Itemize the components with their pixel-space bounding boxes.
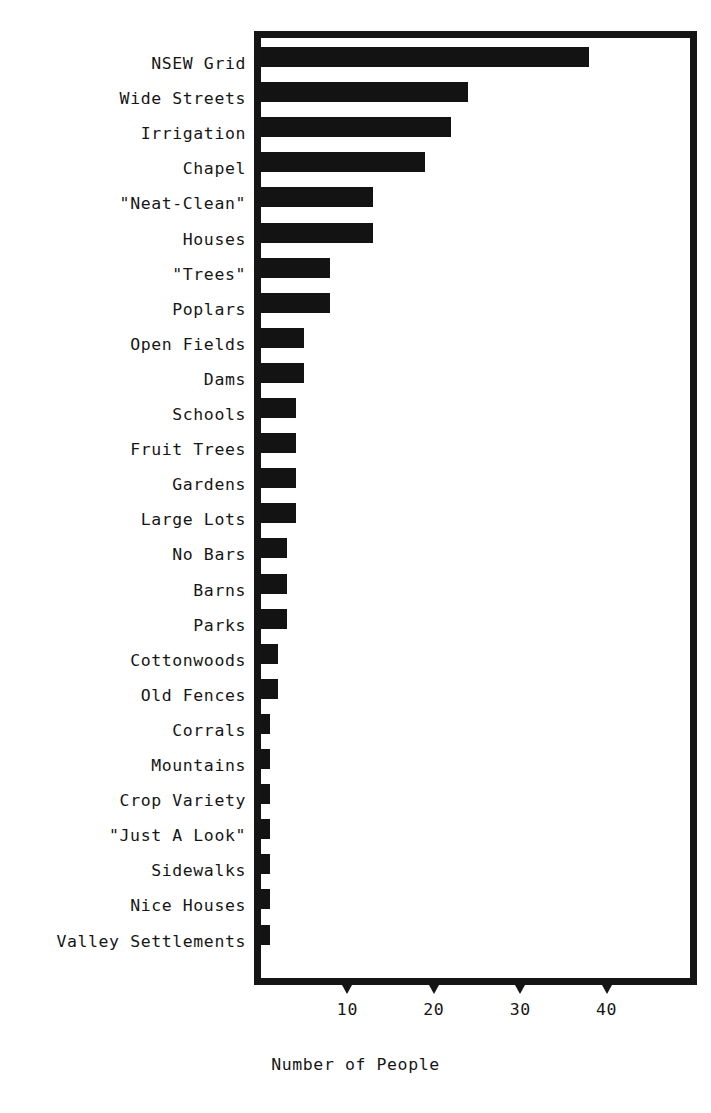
category-label: Gardens (0, 475, 246, 495)
bar (261, 82, 468, 102)
bar (261, 925, 270, 945)
bar (261, 784, 270, 804)
category-label: Chapel (0, 159, 246, 179)
bar (261, 609, 287, 629)
bar (261, 644, 278, 664)
bar (261, 503, 296, 523)
bar-chart-figure: NSEW GridWide StreetsIrrigationChapel"Ne… (0, 0, 711, 1113)
category-label: Schools (0, 405, 246, 425)
category-label: Houses (0, 230, 246, 250)
category-axis: NSEW GridWide StreetsIrrigationChapel"Ne… (0, 38, 246, 978)
x-axis-title: Number of People (0, 1055, 711, 1074)
category-label: Sidewalks (0, 861, 246, 881)
bar (261, 47, 589, 67)
category-label: Mountains (0, 756, 246, 776)
category-label: Poplars (0, 300, 246, 320)
x-tick-label: 30 (510, 1000, 531, 1019)
bar (261, 889, 270, 909)
category-label: Valley Settlements (0, 932, 246, 952)
category-label: "Just A Look" (0, 826, 246, 846)
x-tick-mark (429, 985, 439, 994)
category-label: "Neat-Clean" (0, 194, 246, 214)
category-label: Irrigation (0, 124, 246, 144)
category-label: Fruit Trees (0, 440, 246, 460)
category-label: Crop Variety (0, 791, 246, 811)
bar (261, 152, 425, 172)
category-label: Corrals (0, 721, 246, 741)
bar (261, 258, 330, 278)
x-tick-label: 10 (337, 1000, 358, 1019)
category-label: Old Fences (0, 686, 246, 706)
bar (261, 293, 330, 313)
category-label: Open Fields (0, 335, 246, 355)
category-label: Nice Houses (0, 896, 246, 916)
x-tick-mark (515, 985, 525, 994)
category-label: Barns (0, 581, 246, 601)
x-tick-label: 20 (423, 1000, 444, 1019)
category-label: Wide Streets (0, 89, 246, 109)
bar (261, 398, 296, 418)
bar (261, 714, 270, 734)
bar (261, 749, 270, 769)
category-label: Large Lots (0, 510, 246, 530)
bar (261, 117, 451, 137)
x-tick-mark (342, 985, 352, 994)
bar (261, 433, 296, 453)
category-label: Cottonwoods (0, 651, 246, 671)
x-tick-label: 40 (596, 1000, 617, 1019)
bar (261, 538, 287, 558)
category-label: "Trees" (0, 265, 246, 285)
bar (261, 187, 373, 207)
bar (261, 679, 278, 699)
category-label: Parks (0, 616, 246, 636)
category-label: No Bars (0, 545, 246, 565)
category-label: NSEW Grid (0, 54, 246, 74)
bar (261, 468, 296, 488)
bar (261, 819, 270, 839)
bar (261, 363, 304, 383)
bar (261, 854, 270, 874)
x-tick-mark (602, 985, 612, 994)
bar (261, 328, 304, 348)
bar (261, 223, 373, 243)
bar (261, 574, 287, 594)
bars-layer (261, 31, 697, 985)
category-label: Dams (0, 370, 246, 390)
